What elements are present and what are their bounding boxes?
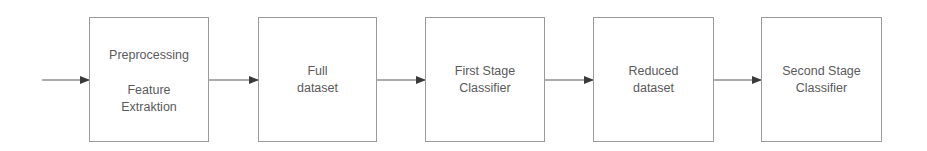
pipeline-diagram: Preprocessing Feature Extraktion Full da… [0, 0, 927, 151]
node-label-line: Extraktion [121, 99, 177, 116]
node-label-line: dataset [297, 80, 338, 97]
node-label-line: Classifier [459, 80, 510, 97]
node-full-dataset: Full dataset [258, 17, 377, 142]
node-label-line: Feature [127, 82, 170, 99]
node-label-line: Full [307, 63, 327, 80]
node-label-line: First Stage [455, 63, 515, 80]
node-label-line: Classifier [796, 80, 847, 97]
node-second-stage-classifier: Second Stage Classifier [761, 17, 882, 142]
node-preprocessing: Preprocessing Feature Extraktion [89, 17, 209, 142]
node-reduced-dataset: Reduced dataset [593, 17, 714, 142]
node-first-stage-classifier: First Stage Classifier [425, 17, 545, 142]
node-label-line: dataset [633, 80, 674, 97]
node-label-line: Preprocessing [109, 47, 189, 64]
node-label-line: Second Stage [782, 63, 861, 80]
node-label-line: Reduced [628, 63, 678, 80]
